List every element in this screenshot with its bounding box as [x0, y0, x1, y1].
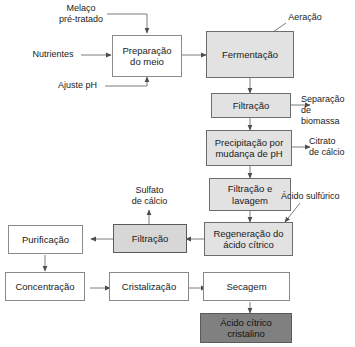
label-melaco-pre-tratado: Melaço pré-tratado	[52, 3, 110, 25]
label-nutrientes: Nutrientes	[25, 49, 81, 60]
node-preparacao-do-meio[interactable]: Preparação do meio	[112, 35, 182, 77]
edge-melaco-preparacao	[107, 14, 147, 33]
node-concentracao[interactable]: Concentração	[5, 272, 85, 301]
node-filtracao-e-lavagem[interactable]: Filtração e lavagem	[209, 178, 291, 211]
label-acido-sulfurico: Ácido sulfúrico	[281, 191, 355, 202]
label-ajuste-ph: Ajuste pH	[50, 80, 105, 91]
node-filtracao-1[interactable]: Filtração	[211, 93, 291, 118]
edge-ajuste-ph-preparacao	[105, 77, 147, 86]
node-fermentacao[interactable]: Fermentação	[206, 31, 294, 78]
label-separacao-de-biomassa: Separação de biomassa	[301, 94, 355, 127]
label-citrato-de-calcio: Citrato de cálcio	[309, 136, 355, 158]
label-sulfato-de-calcio: Sulfato de cálcio	[122, 185, 177, 207]
node-precipitacao-mudanca-ph[interactable]: Precipitação por mudança de pH	[206, 130, 292, 166]
node-filtracao-2[interactable]: Filtração	[113, 224, 187, 253]
flowchart-canvas: Preparação do meio Fermentação Filtração…	[0, 0, 355, 347]
label-aeracao: Aeração	[280, 12, 330, 23]
node-cristalizacao[interactable]: Cristalização	[109, 272, 189, 301]
node-purificacao[interactable]: Purificação	[8, 225, 83, 254]
node-acido-citrico-cristalino[interactable]: Ácido cítrico cristalino	[200, 313, 292, 343]
node-regeneracao-acido-citrico[interactable]: Regeneração do ácido cítrico	[204, 222, 293, 256]
node-secagem[interactable]: Secagem	[203, 272, 290, 301]
